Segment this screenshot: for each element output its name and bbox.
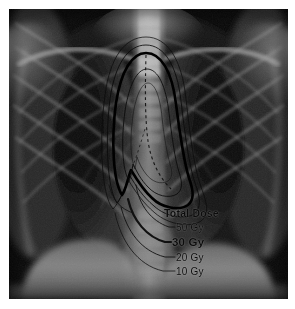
legend-item-10gy: 10 Gy: [176, 266, 204, 277]
legend-item-30gy: 30 Gy: [172, 236, 204, 248]
legend-title: Total Dose: [164, 207, 219, 219]
dose-legend: Total Dose 50 Gy 30 Gy 20 Gy 10 Gy: [9, 9, 288, 299]
radiation-plan-figure: Total Dose 50 Gy 30 Gy 20 Gy 10 Gy: [0, 0, 295, 309]
legend-item-50gy: 50 Gy: [176, 222, 204, 233]
legend-item-20gy: 20 Gy: [176, 252, 204, 263]
